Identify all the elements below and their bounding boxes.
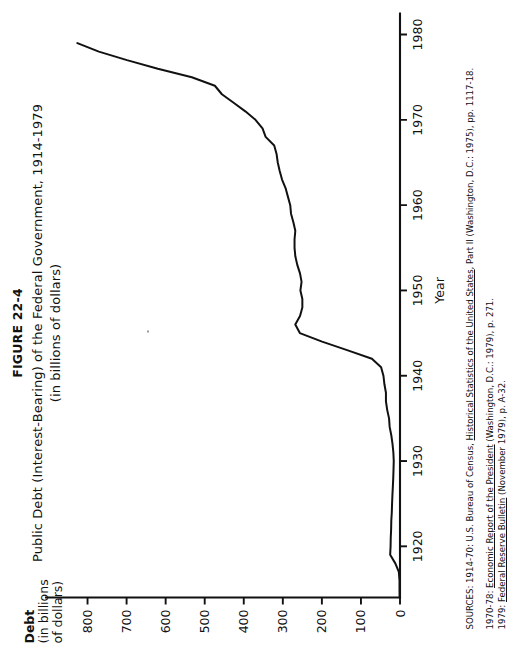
y-tick-label: 700 xyxy=(119,609,134,633)
source-1-suffix: , Part II (Washington, D.C.: 1975), pp. … xyxy=(465,67,475,269)
x-tick-label: 1920 xyxy=(410,530,425,562)
source-2-prefix: 1970-78: xyxy=(485,587,495,629)
y-axis-title-line1: Debt xyxy=(22,609,37,643)
y-tick-label: 300 xyxy=(275,609,290,633)
x-tick-label: 1950 xyxy=(410,274,425,306)
y-tick-label: 0 xyxy=(393,609,408,617)
x-axis-title: Year xyxy=(432,276,447,304)
source-line-3: 1979: Federal Reserve Bulletin (November… xyxy=(497,4,508,629)
x-tick-label: 1980 xyxy=(410,18,425,50)
debt-line-chart: 1920193019401950196019701980010020030040… xyxy=(0,0,512,665)
y-axis-title: Debt (in billions of dollars) xyxy=(22,579,65,643)
x-tick-label: 1930 xyxy=(410,445,425,477)
source-3-suffix: (November 1979), p. A-32. xyxy=(497,380,507,498)
y-tick-label: 500 xyxy=(197,609,212,633)
source-line-2: 1970-78: Economic Report of the Presiden… xyxy=(485,4,496,629)
source-1-italic: Historical Statistics of the United Stat… xyxy=(465,269,475,440)
y-axis-title-line3: of dollars) xyxy=(50,580,65,643)
scan-speck xyxy=(147,330,149,332)
figure-page: FIGURE 22-4 Public Debt (Interest-Bearin… xyxy=(0,0,512,665)
x-tick-label: 1940 xyxy=(410,359,425,391)
x-tick-label: 1960 xyxy=(410,189,425,221)
source-line-1: SOURCES: 1914-70: U.S. Bureau of Census,… xyxy=(465,4,476,629)
y-tick-label: 400 xyxy=(236,609,251,633)
chart-plot-area: 1920193019401950196019701980010020030040… xyxy=(0,0,512,665)
x-tick-label: 1970 xyxy=(410,103,425,135)
source-1-prefix: SOURCES: 1914-70: U.S. Bureau of Census, xyxy=(465,440,475,629)
source-2-suffix: (Washington, D.C.: 1979), p. 271. xyxy=(485,297,495,444)
y-tick-label: 800 xyxy=(80,609,95,633)
y-tick-label: 600 xyxy=(158,609,173,633)
source-2-italic: Economic Report of the President xyxy=(485,444,495,588)
y-axis-title-line2: (in billions xyxy=(36,579,51,643)
sources-block: SOURCES: 1914-70: U.S. Bureau of Census,… xyxy=(465,4,508,629)
y-tick-label: 100 xyxy=(353,609,368,633)
source-3-italic: Federal Reserve Bulletin xyxy=(497,497,507,601)
debt-curve xyxy=(77,43,399,597)
y-tick-label: 200 xyxy=(314,609,329,633)
source-3-prefix: 1979: xyxy=(497,602,507,630)
